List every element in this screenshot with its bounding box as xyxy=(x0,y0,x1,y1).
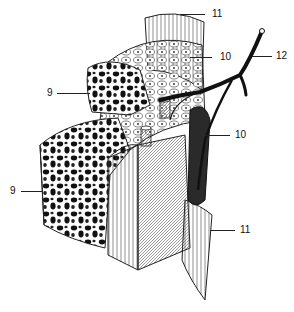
label-9-top-leader xyxy=(57,93,90,94)
label-9-bottom: 9 xyxy=(10,186,16,196)
label-12-leader xyxy=(252,56,272,57)
label-12: 12 xyxy=(276,51,287,61)
bone-structure-illustration: 11 12 10 9 10 9 11 xyxy=(0,0,294,312)
bone-drawing xyxy=(0,0,294,312)
label-10-top: 10 xyxy=(220,52,231,62)
label-10-mid: 10 xyxy=(235,130,246,140)
label-10-mid-leader xyxy=(205,135,230,136)
label-11-bottom: 11 xyxy=(240,225,250,235)
label-11-top-leader xyxy=(180,14,205,15)
label-9-top: 9 xyxy=(47,88,53,98)
label-11-bottom-leader xyxy=(210,230,235,231)
label-11-top: 11 xyxy=(212,9,222,19)
label-10-top-leader xyxy=(190,57,212,58)
label-9-bottom-leader xyxy=(21,191,42,192)
